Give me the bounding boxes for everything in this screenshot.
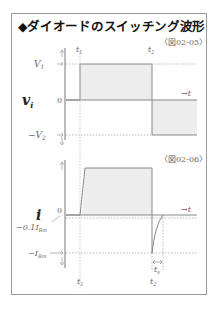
i-axis-label: i	[36, 207, 41, 223]
current-waveform	[50, 160, 197, 270]
ts-label: ts	[154, 265, 160, 275]
ts-dimension-arrow	[153, 260, 162, 264]
t2-label-lower: t2	[150, 277, 156, 287]
time-label-upper: →t	[181, 89, 192, 98]
vi-axis-label: vi	[22, 92, 33, 110]
recovery-curve	[152, 215, 163, 253]
v1-label: V1	[34, 59, 44, 70]
negative-pulse-area	[152, 100, 197, 135]
t2-label-upper: t2	[148, 45, 154, 55]
forward-current-area	[82, 168, 152, 215]
time-label-lower: →t	[181, 205, 192, 214]
waveform-diagram: V1 0 −V2 vi →t t1 t2 i 0 −0.1IRm −IRm →t…	[0, 0, 220, 312]
positive-pulse-area	[80, 64, 152, 100]
near-zero-label: −0.1IRm	[16, 223, 47, 233]
t1-label-lower: t1	[77, 277, 83, 287]
zero-label-lower: 0	[57, 206, 62, 215]
irm-label: −IRm	[28, 249, 47, 259]
zero-label-upper: 0	[57, 96, 62, 105]
t1-label-upper: t1	[76, 45, 82, 55]
v2-label: −V2	[28, 130, 46, 141]
